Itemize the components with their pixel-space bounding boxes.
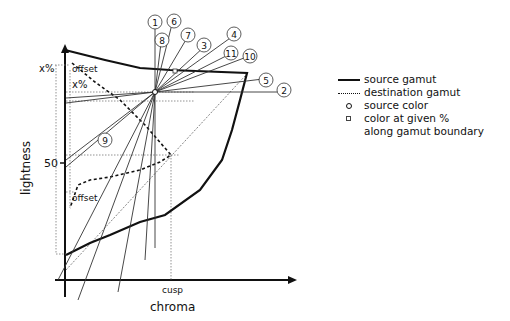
line-label-8: 8 xyxy=(155,33,169,47)
svg-text:9: 9 xyxy=(102,136,108,146)
legend-label: color at given % along gamut boundary xyxy=(364,112,484,138)
legend-item-color-at-percent: color at given % along gamut boundary xyxy=(338,112,484,138)
line-label-4: 4 xyxy=(227,27,241,41)
offset-top-label: offset xyxy=(72,64,98,74)
square-icon xyxy=(338,112,364,125)
solid-line-icon xyxy=(338,73,364,86)
x-axis-label: chroma xyxy=(150,300,195,314)
y-axis-label: lightness xyxy=(19,141,33,195)
svg-text:2: 2 xyxy=(281,86,287,96)
line-label-1: 1 xyxy=(148,15,162,29)
dashed-line-icon xyxy=(338,86,364,99)
legend-item-destination-gamut: destination gamut xyxy=(338,86,484,99)
offset-bottom-label: offset xyxy=(72,193,98,203)
x-percent-inner-label: x% xyxy=(72,79,87,90)
line-label-10: 10 xyxy=(243,49,257,63)
legend-label: destination gamut xyxy=(364,86,460,99)
svg-text:11: 11 xyxy=(225,49,236,59)
svg-text:1: 1 xyxy=(152,18,158,28)
legend-label: source gamut xyxy=(364,73,436,86)
x-tick-cusp: cusp xyxy=(162,285,183,295)
y-tick-50: 50 xyxy=(44,157,58,170)
gamut-percent-point xyxy=(173,69,177,73)
x-percent-outer-label: x% xyxy=(39,63,54,74)
svg-text:5: 5 xyxy=(263,76,269,86)
source-color-point xyxy=(153,90,158,95)
circle-icon xyxy=(338,99,364,112)
svg-text:6: 6 xyxy=(171,17,177,27)
line-label-7: 7 xyxy=(181,28,195,42)
line-label-6: 6 xyxy=(167,14,181,28)
line-number-labels: 1 6 8 7 3 4 11 10 5 2 9 xyxy=(98,14,291,147)
line-label-2: 2 xyxy=(277,83,291,97)
svg-text:3: 3 xyxy=(201,41,207,51)
gamut-mapping-diagram: 1 6 8 7 3 4 11 10 5 2 9 x% x% offset off… xyxy=(0,0,510,321)
line-label-9: 9 xyxy=(98,133,112,147)
line-label-3: 3 xyxy=(197,38,211,52)
svg-text:10: 10 xyxy=(244,52,256,62)
legend-item-source-color: source color xyxy=(338,99,484,112)
svg-text:8: 8 xyxy=(159,36,165,46)
svg-text:7: 7 xyxy=(185,31,191,41)
legend: source gamut destination gamut source co… xyxy=(338,73,484,138)
legend-label: source color xyxy=(364,99,428,112)
legend-item-source-gamut: source gamut xyxy=(338,73,484,86)
line-label-5: 5 xyxy=(259,73,273,87)
line-label-11: 11 xyxy=(224,46,238,60)
svg-text:4: 4 xyxy=(231,30,237,40)
